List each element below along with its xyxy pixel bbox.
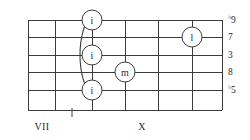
interval-degree: 9 bbox=[231, 15, 236, 25]
fingering-label: i bbox=[91, 85, 94, 96]
fingering-label: l bbox=[191, 32, 194, 43]
interval-degree: 3 bbox=[228, 50, 233, 60]
fingering-marker-l-5: l bbox=[182, 27, 202, 47]
fingering-marker-i-3: i bbox=[82, 80, 102, 100]
fingering-label: i bbox=[91, 15, 94, 26]
fingering-marker-i-1: i bbox=[82, 10, 102, 30]
position-label-x: X bbox=[138, 121, 146, 132]
fingering-marker-i-2: i bbox=[82, 45, 102, 65]
fingering-marker-m-4: m bbox=[115, 62, 135, 82]
fingering-label: m bbox=[121, 67, 129, 78]
fingering-label: i bbox=[91, 50, 94, 61]
interval-degree: 8 bbox=[228, 67, 233, 77]
interval-label-5: ♭5 bbox=[228, 83, 236, 95]
interval-label-3: 3 bbox=[228, 50, 233, 60]
interval-label-1: ♭9 bbox=[228, 13, 236, 25]
interval-degree: 5 bbox=[231, 85, 236, 95]
position-labels-group: VIIX bbox=[35, 121, 147, 132]
interval-label-4: 8 bbox=[228, 67, 233, 77]
interval-label-2: 7 bbox=[228, 32, 233, 42]
position-label-vii: VII bbox=[35, 121, 50, 132]
chord-diagram: iiiml ♭9738♭5 VIIX bbox=[0, 0, 250, 140]
interval-degree: 7 bbox=[228, 32, 233, 42]
fretboard-svg: iiiml ♭9738♭5 VIIX bbox=[0, 0, 250, 140]
interval-labels-group: ♭9738♭5 bbox=[228, 13, 236, 95]
